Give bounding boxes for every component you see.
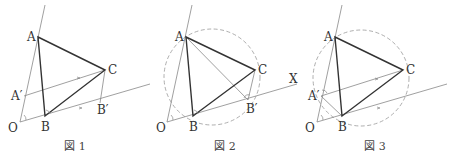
label-c: C	[108, 63, 117, 77]
parallel-arrow-icon	[77, 77, 80, 79]
parallel-arrow-icon	[79, 107, 82, 109]
segment-a-b-prime	[186, 37, 248, 100]
triangle-abc	[335, 37, 403, 116]
triangle-abc	[186, 37, 255, 116]
angle-o-mark	[321, 115, 323, 120]
ray-ox	[167, 84, 297, 122]
segment-a-prime-c	[24, 70, 105, 96]
caption-figure-2: 図 2	[214, 140, 236, 153]
ray-ob	[317, 84, 447, 122]
label-o: O	[8, 121, 18, 135]
figure-1: A C A′ B′ B O 図 1	[8, 5, 150, 153]
label-o: O	[156, 121, 166, 135]
figure-2: A C X B′ B O 図 2	[156, 5, 298, 153]
label-a-prime: A′	[10, 89, 23, 103]
figure-3: A C A′ B O 図 3	[305, 5, 447, 153]
label-a-prime: A′	[307, 89, 320, 103]
label-x: X	[289, 72, 298, 86]
triangle-abc	[38, 37, 105, 116]
angle-a-prime-mark	[322, 90, 327, 93]
label-b: B	[338, 120, 347, 134]
geometry-figures: A C A′ B′ B O 図 1 A C X B′ B O 図 2	[0, 0, 450, 160]
label-a: A	[323, 30, 333, 44]
segment-a-prime-c	[321, 70, 403, 96]
label-b-prime: B′	[246, 102, 258, 116]
label-b: B	[189, 120, 198, 134]
segment-a-prime-b	[321, 96, 342, 116]
angle-o-mark	[171, 115, 173, 120]
label-b: B	[41, 120, 50, 134]
parallel-arrow-icon	[377, 107, 380, 109]
circumcircle	[313, 30, 409, 126]
label-c: C	[406, 63, 415, 77]
label-o: O	[305, 121, 315, 135]
label-c: C	[258, 63, 267, 77]
caption-figure-1: 図 1	[64, 140, 86, 153]
ray-ob	[20, 84, 150, 122]
label-a: A	[26, 30, 36, 44]
label-b-prime: B′	[97, 103, 109, 117]
caption-figure-3: 図 3	[364, 140, 386, 153]
label-a: A	[174, 30, 184, 44]
ray-oa	[20, 5, 45, 122]
angle-o-mark	[24, 115, 26, 120]
